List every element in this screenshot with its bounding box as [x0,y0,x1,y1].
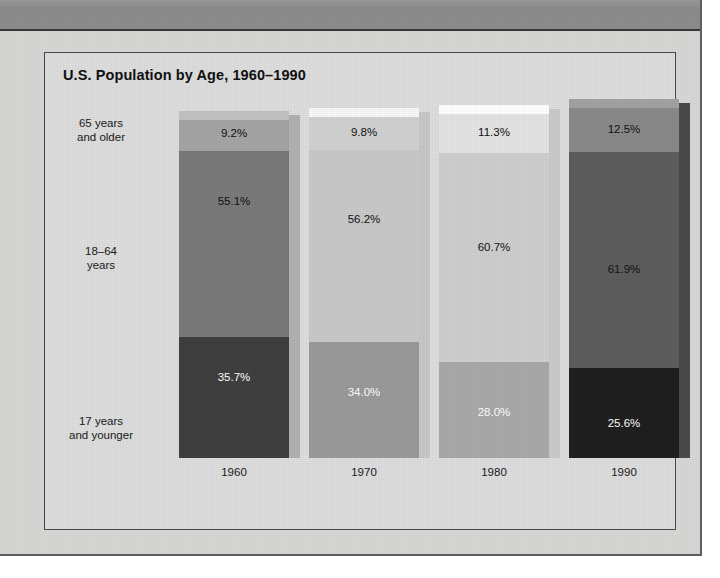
bar-segment[interactable]: 12.5% [569,108,679,152]
bar-value-label: 34.0% [309,386,419,398]
bar-side-face [549,109,560,458]
row-label: 18–64years [49,244,153,272]
bar-value-label: 28.0% [439,406,549,418]
bar-value-label: 9.2% [179,127,289,139]
plot-area: 35.7%55.1%9.2%34.0%56.2%9.8%28.0%60.7%11… [161,94,661,496]
bar-segment[interactable]: 9.8% [309,117,419,150]
bar-column-1970[interactable]: 34.0%56.2%9.8% [309,117,419,458]
bar-segment[interactable]: 34.0% [309,342,419,458]
row-label: 65 yearsand older [49,116,153,144]
row-label-line: and older [49,130,153,144]
x-axis-labels: 1960197019801990 [161,466,661,490]
bar-segment[interactable]: 55.1% [179,151,289,337]
bar-segment[interactable]: 35.7% [179,337,289,458]
bar-value-label: 61.9% [569,263,679,275]
chart-frame: U.S. Population by Age, 1960–1990 65 yea… [44,52,676,530]
row-label-line: 65 years [49,116,153,130]
bar-top-cap [179,111,289,120]
bar-segment[interactable]: 60.7% [439,153,549,362]
bar-column-1960[interactable]: 35.7%55.1%9.2% [179,120,289,458]
bar-top-cap [439,105,549,114]
x-axis-label-1990: 1990 [569,466,679,478]
row-label: 17 yearsand younger [49,414,153,442]
bar-column-1980[interactable]: 28.0%60.7%11.3% [439,114,549,458]
row-label-column: 65 yearsand older18–64years17 yearsand y… [45,94,161,496]
row-label-line: and younger [49,428,153,442]
bar-side-face [679,103,690,458]
bar-column-1990[interactable]: 25.6%61.9%12.5% [569,108,679,458]
row-label-line: 18–64 [49,244,153,258]
bar-value-label: 11.3% [439,126,549,138]
bar-value-label: 35.7% [179,371,289,383]
bar-value-label: 56.2% [309,213,419,225]
bar-top-cap [569,99,679,108]
bar-segment[interactable]: 61.9% [569,152,679,369]
bar-value-label: 55.1% [179,195,289,207]
bar-segment[interactable]: 25.6% [569,368,679,458]
chart-title: U.S. Population by Age, 1960–1990 [63,67,306,83]
scanned-page: U.S. Population by Age, 1960–1990 65 yea… [0,0,702,556]
row-label-line: 17 years [49,414,153,428]
bar-side-face [419,112,430,458]
bar-top-cap [309,108,419,117]
bars-container: 35.7%55.1%9.2%34.0%56.2%9.8%28.0%60.7%11… [161,94,661,496]
row-label-line: years [49,258,153,272]
x-axis-label-1960: 1960 [179,466,289,478]
page-header-band [0,0,700,31]
bar-segment[interactable]: 11.3% [439,114,549,153]
x-axis-label-1980: 1980 [439,466,549,478]
bar-segment[interactable]: 9.2% [179,120,289,151]
bar-value-label: 9.8% [309,126,419,138]
bar-side-face [289,115,300,458]
screenshot-root: U.S. Population by Age, 1960–1990 65 yea… [0,0,720,578]
bar-value-label: 60.7% [439,241,549,253]
bar-value-label: 25.6% [569,417,679,429]
bar-value-label: 12.5% [569,123,679,135]
bar-segment[interactable]: 56.2% [309,150,419,342]
x-axis-label-1970: 1970 [309,466,419,478]
bar-segment[interactable]: 28.0% [439,362,549,458]
